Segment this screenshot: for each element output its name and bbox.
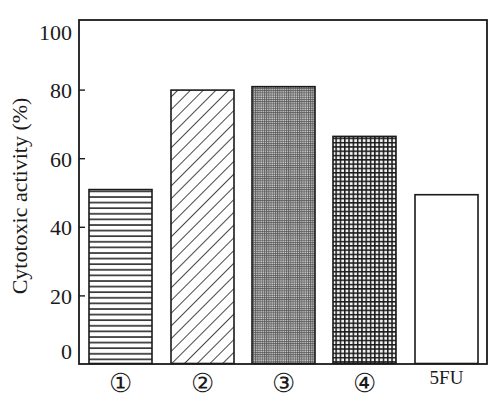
bar-3 — [252, 87, 315, 364]
x-category-label: ③ — [272, 369, 295, 398]
x-category-label: 5FU — [430, 367, 464, 388]
bar-1 — [89, 190, 152, 364]
y-tick-label: 40 — [50, 215, 72, 240]
x-category-label: ① — [109, 369, 132, 398]
bar-2 — [171, 90, 234, 363]
bar-5 — [415, 195, 478, 364]
y-tick-label: 100 — [39, 20, 72, 45]
y-tick-label: 0 — [61, 339, 72, 364]
bars-group — [89, 87, 478, 364]
x-category-label: ④ — [353, 369, 376, 398]
y-axis-label: Cytotoxic activity (%) — [7, 98, 32, 295]
bar-chart: 020406080100 ①②③④5FU Cytotoxic activity … — [0, 0, 500, 409]
y-tick-label: 20 — [50, 284, 72, 309]
chart-canvas: 020406080100 ①②③④5FU Cytotoxic activity … — [0, 0, 500, 409]
x-axis-labels: ①②③④5FU — [109, 367, 464, 398]
bar-4 — [333, 136, 396, 363]
y-tick-label: 60 — [50, 147, 72, 172]
y-tick-label: 80 — [50, 78, 72, 103]
x-category-label: ② — [191, 369, 214, 398]
